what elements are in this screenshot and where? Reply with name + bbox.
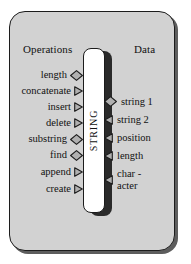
- diamond-icon: [70, 70, 83, 81]
- operation-label: create: [46, 184, 71, 195]
- data-row[interactable]: length: [104, 150, 143, 162]
- operation-label: insert: [48, 102, 71, 113]
- operation-row[interactable]: substring: [28, 134, 83, 145]
- data-row[interactable]: string 2: [104, 114, 149, 126]
- diagram-canvas: Operations Data STRING lengthconcatenate…: [0, 0, 191, 264]
- operation-label: substring: [28, 134, 67, 145]
- triangle-left-icon: [104, 151, 113, 161]
- triangle-left-icon: [104, 175, 113, 185]
- data-label: char -acter: [117, 168, 141, 192]
- data-row[interactable]: string 1: [104, 96, 153, 108]
- triangle-icon: [74, 86, 83, 96]
- operation-row[interactable]: length: [41, 70, 83, 81]
- operation-label: length: [41, 70, 67, 81]
- data-row[interactable]: char -acter: [104, 168, 141, 192]
- triangle-left-icon: [104, 133, 113, 143]
- operation-label: append: [41, 167, 71, 178]
- data-column-header: Data: [134, 43, 155, 55]
- triangle-icon: [74, 167, 83, 177]
- diamond-icon: [70, 150, 83, 161]
- operation-label: find: [50, 150, 67, 161]
- operation-label: delete: [46, 118, 71, 129]
- class-box-label-wrap: STRING: [83, 48, 105, 213]
- diamond-icon: [70, 134, 83, 145]
- data-row[interactable]: position: [104, 132, 151, 144]
- triangle-icon: [74, 102, 83, 112]
- operation-row[interactable]: append: [41, 167, 83, 178]
- operation-row[interactable]: insert: [48, 102, 83, 113]
- class-name-label: STRING: [89, 110, 100, 152]
- operation-label: concatenate: [21, 86, 71, 97]
- data-label: position: [117, 132, 151, 144]
- operations-column-header: Operations: [23, 43, 72, 55]
- data-label: string 1: [121, 96, 153, 108]
- data-label: string 2: [117, 114, 149, 126]
- operation-row[interactable]: create: [46, 184, 83, 195]
- diamond-icon: [104, 96, 117, 107]
- operation-row[interactable]: delete: [46, 118, 83, 129]
- operation-row[interactable]: find: [50, 150, 83, 161]
- triangle-icon: [74, 118, 83, 128]
- operation-row[interactable]: concatenate: [21, 86, 83, 97]
- triangle-icon: [74, 184, 83, 194]
- triangle-left-icon: [104, 115, 113, 125]
- data-label: length: [117, 150, 143, 162]
